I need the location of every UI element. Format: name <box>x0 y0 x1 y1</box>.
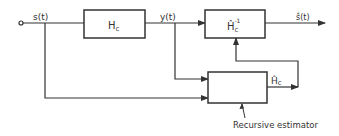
output-signal-label: ŝ(t) <box>296 12 310 22</box>
recursive-estimator-block <box>208 72 267 103</box>
estimator-caption: Recursive estimator <box>233 120 318 130</box>
input-signal-label: s(t) <box>33 12 48 22</box>
y-branch-line <box>175 23 208 79</box>
block-diagram: s(t) Hc y(t) Ĥc-1 ŝ(t) Ĥc Recursive esti… <box>0 0 339 136</box>
caption-pointer-arrowhead <box>240 103 245 109</box>
input-terminal <box>19 21 23 25</box>
estimate-label: Ĥc <box>271 75 282 87</box>
channel-output-label: y(t) <box>160 12 176 22</box>
